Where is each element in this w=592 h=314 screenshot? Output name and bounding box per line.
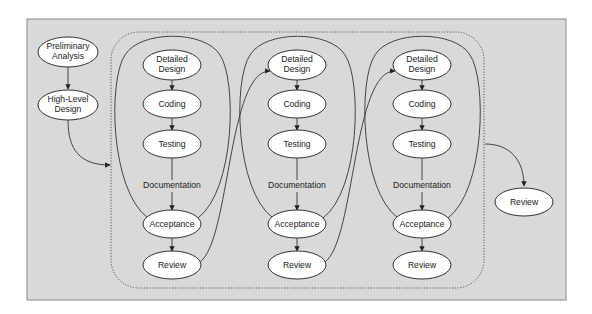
svg-text:Coding: Coding	[158, 99, 185, 109]
iter1-documentation-label: Documentation	[143, 180, 201, 190]
iterative-development-diagram: Preliminary Analysis High-Level Design D…	[0, 0, 592, 314]
iter3-testing: Testing	[393, 130, 451, 158]
svg-text:Review: Review	[158, 260, 187, 270]
svg-text:Analysis: Analysis	[52, 51, 84, 61]
svg-text:Acceptance: Acceptance	[275, 219, 320, 229]
svg-text:Testing: Testing	[408, 139, 435, 149]
iter2-testing: Testing	[268, 130, 326, 158]
svg-text:Acceptance: Acceptance	[400, 219, 445, 229]
node-final-review: Review	[495, 188, 553, 216]
svg-text:Detailed: Detailed	[281, 54, 313, 64]
iter1-detailed-design: Detailed Design	[143, 50, 201, 80]
node-preliminary-analysis: Preliminary Analysis	[38, 37, 98, 67]
node-high-level-design: High-Level Design	[38, 90, 98, 120]
iter2-acceptance: Acceptance	[268, 210, 326, 238]
svg-text:Design: Design	[55, 104, 82, 114]
svg-text:Design: Design	[284, 64, 311, 74]
iter3-acceptance: Acceptance	[393, 210, 451, 238]
iter3-documentation-label: Documentation	[393, 180, 451, 190]
iter2-documentation-label: Documentation	[268, 180, 326, 190]
svg-text:Coding: Coding	[283, 99, 310, 109]
svg-text:Review: Review	[283, 260, 312, 270]
svg-text:Coding: Coding	[408, 99, 435, 109]
iter3-detailed-design: Detailed Design	[393, 50, 451, 80]
svg-text:Detailed: Detailed	[156, 54, 188, 64]
iter3-review: Review	[393, 251, 451, 279]
svg-text:Detailed: Detailed	[406, 54, 438, 64]
iter1-coding: Coding	[143, 90, 201, 118]
svg-text:Testing: Testing	[283, 139, 310, 149]
iter1-review: Review	[143, 251, 201, 279]
svg-text:Testing: Testing	[158, 139, 185, 149]
iter2-review: Review	[268, 251, 326, 279]
iter3-coding: Coding	[393, 90, 451, 118]
svg-text:Review: Review	[408, 260, 437, 270]
iter2-coding: Coding	[268, 90, 326, 118]
svg-text:High-Level: High-Level	[47, 94, 88, 104]
iter1-testing: Testing	[143, 130, 201, 158]
iter1-acceptance: Acceptance	[143, 210, 201, 238]
iter2-detailed-design: Detailed Design	[268, 50, 326, 80]
svg-text:Acceptance: Acceptance	[150, 219, 195, 229]
svg-text:Preliminary: Preliminary	[47, 41, 91, 51]
svg-text:Design: Design	[159, 64, 186, 74]
svg-text:Design: Design	[409, 64, 436, 74]
svg-text:Review: Review	[510, 197, 539, 207]
